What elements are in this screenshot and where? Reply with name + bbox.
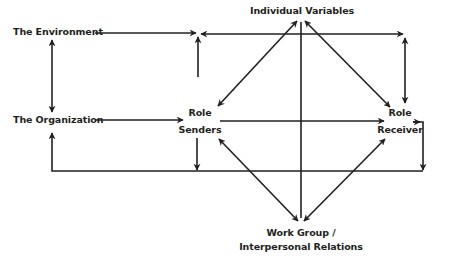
edge-feedback-bottom	[52, 133, 423, 171]
node-role-receiver-line1: Role	[388, 107, 411, 119]
node-environment: The Environment	[13, 26, 103, 38]
edge-workgroup-senders	[219, 139, 298, 221]
node-role-senders-line2: Senders	[179, 124, 222, 136]
edge-workgroup-receiver	[304, 139, 385, 221]
node-work-group-line1: Work Group /	[266, 227, 335, 239]
node-work-group-line2: Interpersonal Relations	[239, 241, 363, 253]
node-role-senders-line1: Role	[188, 107, 211, 119]
node-individual-variables: Individual Variables	[250, 5, 354, 17]
node-organization: The Organization	[13, 114, 103, 126]
node-role-receiver-line2: Receiver	[377, 124, 423, 136]
